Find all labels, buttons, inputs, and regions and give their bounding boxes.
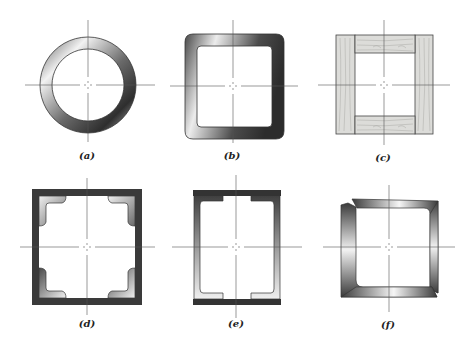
section-c-wood-box xyxy=(318,20,450,145)
figure-canvas xyxy=(0,0,475,351)
right-board xyxy=(415,35,433,134)
section-a-circular-tube xyxy=(25,20,155,142)
section-e-channel-box xyxy=(172,175,302,318)
top-cover-plate xyxy=(193,190,281,196)
tube-wall xyxy=(185,34,284,139)
label-f: (f) xyxy=(381,319,395,330)
section-d-plated-box xyxy=(20,178,155,315)
section-b-square-tube xyxy=(170,20,298,143)
upper-angle xyxy=(352,199,438,293)
bottom-board xyxy=(355,116,415,134)
label-b: (b) xyxy=(224,150,240,161)
centroidal-axes xyxy=(172,175,302,318)
label-e: (e) xyxy=(228,318,244,329)
label-d: (d) xyxy=(79,318,95,329)
section-f-bent-angles xyxy=(323,185,455,312)
label-a: (a) xyxy=(79,150,95,161)
bottom-cover-plate xyxy=(193,299,281,305)
label-c: (c) xyxy=(375,152,391,163)
